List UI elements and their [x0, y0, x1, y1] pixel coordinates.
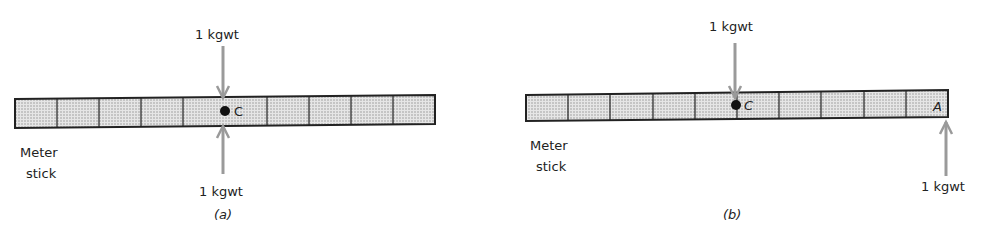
caption-a: (a) — [214, 207, 232, 222]
figure: C 1 kgwt 1 kgwt Meter stick (a) — [0, 0, 982, 247]
force-arrow-up-b — [940, 122, 952, 176]
center-point-b — [731, 100, 741, 110]
panel-b: C A 1 kgwt 1 kgwt Meter stick (b) — [526, 19, 965, 222]
point-a-label-b: A — [932, 99, 942, 114]
panel-a: C 1 kgwt 1 kgwt Meter stick (a) — [15, 27, 435, 222]
force-arrow-down-b — [729, 43, 741, 98]
force-top-label-a: 1 kgwt — [195, 27, 239, 42]
caption-b: (b) — [723, 207, 741, 222]
force-bottom-label-a: 1 kgwt — [199, 184, 243, 199]
stick-label-line1-b: Meter — [530, 138, 568, 153]
force-arrow-down-a — [217, 46, 229, 98]
stick-label-line1-a: Meter — [20, 145, 58, 160]
center-point-a — [220, 106, 230, 116]
stick-label-line2-a: stick — [26, 166, 57, 181]
stick-label-line2-b: stick — [536, 159, 567, 174]
point-c-label-a: C — [234, 104, 243, 119]
point-c-label-b: C — [744, 98, 754, 113]
force-bottom-label-b: 1 kgwt — [921, 179, 965, 194]
force-arrow-up-a — [217, 126, 229, 174]
force-top-label-b: 1 kgwt — [709, 19, 753, 34]
